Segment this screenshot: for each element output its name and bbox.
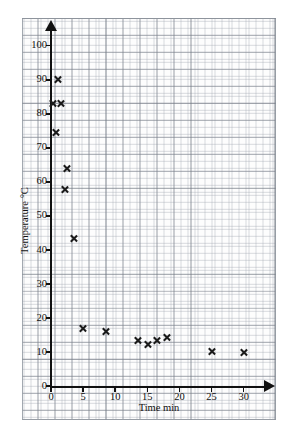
- x-axis-title: Time min: [99, 402, 219, 413]
- data-point-marker: [52, 128, 61, 137]
- y-tick-label: 90: [37, 74, 48, 85]
- y-tick-label: 100: [31, 40, 47, 51]
- y-tick-label: 20: [37, 313, 48, 324]
- data-point-marker: [133, 336, 142, 345]
- y-tick-label: 70: [37, 142, 48, 153]
- data-point-marker: [57, 99, 66, 108]
- data-point-marker: [143, 340, 152, 349]
- x-tick-label: 20: [168, 392, 190, 403]
- y-axis-arrow-icon: [45, 20, 57, 31]
- x-tick-label: 10: [104, 392, 126, 403]
- chart-figure: 0102030405060708090100 051015202530 Temp…: [0, 0, 298, 441]
- y-tick-label: 30: [37, 279, 48, 290]
- plot-area: 0102030405060708090100 051015202530 Temp…: [0, 0, 298, 441]
- data-point-marker: [239, 348, 248, 357]
- data-point-marker: [79, 324, 88, 333]
- y-tick-label: 80: [37, 108, 48, 119]
- data-point-marker: [207, 347, 216, 356]
- data-point-marker: [152, 336, 161, 345]
- x-tick-label: 25: [201, 392, 223, 403]
- y-tick-label: 0: [42, 381, 47, 392]
- data-point-marker: [162, 333, 171, 342]
- y-tick-label: 50: [37, 210, 48, 221]
- x-tick-label: 30: [233, 392, 255, 403]
- data-point-marker: [69, 234, 78, 243]
- data-point-marker: [61, 185, 70, 194]
- y-axis-title: Temperature °C: [19, 161, 30, 281]
- x-tick-label: 5: [72, 392, 94, 403]
- x-tick-label: 0: [40, 392, 62, 403]
- data-point-marker: [62, 164, 71, 173]
- data-point-marker: [54, 75, 63, 84]
- y-tick-label: 40: [37, 245, 48, 256]
- x-axis-arrow-icon: [264, 380, 275, 392]
- x-tick-label: 15: [136, 392, 158, 403]
- data-point-marker: [101, 327, 110, 336]
- y-tick-label: 60: [37, 176, 48, 187]
- y-axis-line: [50, 28, 52, 387]
- y-tick-label: 10: [37, 347, 48, 358]
